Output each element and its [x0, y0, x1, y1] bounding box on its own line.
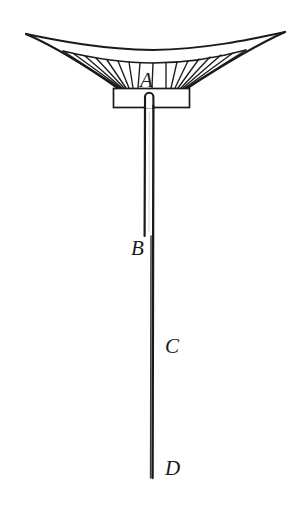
- canopy-rib: [186, 50, 246, 88]
- canopy-rib: [129, 62, 133, 88]
- parachute-canopy: [26, 32, 285, 89]
- canopy-right-outer-edge: [186, 32, 285, 89]
- canopy-rim-outer-edge: [26, 32, 285, 50]
- label-a: A: [140, 70, 153, 91]
- parachute-diagram: [0, 0, 306, 507]
- rod-rounded-cap: [145, 93, 153, 108]
- figure-canvas: A B C D: [0, 0, 306, 507]
- rod-right-rail: [153, 106, 154, 478]
- label-c: C: [165, 336, 179, 357]
- suspension-rod: [145, 93, 154, 478]
- label-d: D: [165, 458, 180, 479]
- canopy-rib: [171, 62, 177, 88]
- label-b: B: [131, 238, 144, 259]
